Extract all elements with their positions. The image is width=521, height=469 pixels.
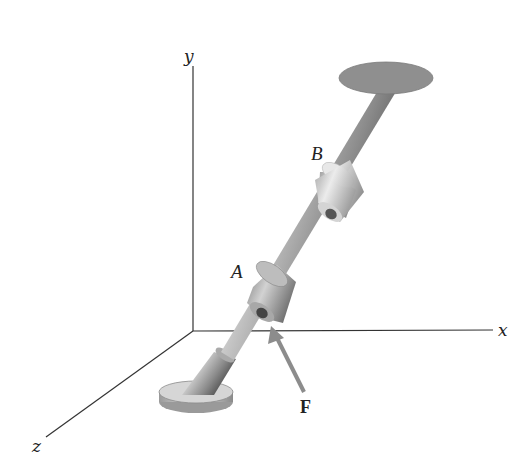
collar-b xyxy=(315,157,364,225)
top-plate xyxy=(339,62,433,94)
rod-collar-diagram: y x z B A F xyxy=(0,0,521,469)
coordinate-axes: y x z xyxy=(31,46,508,456)
x-axis-label: x xyxy=(498,320,508,340)
rod xyxy=(221,82,397,360)
force-f-label: F xyxy=(300,397,311,417)
force-f-arrow xyxy=(268,326,304,392)
point-b-label: B xyxy=(311,143,323,164)
z-axis-label: z xyxy=(31,436,42,456)
point-a-label: A xyxy=(229,261,243,282)
diagram-canvas: y x z B A F xyxy=(0,0,521,469)
y-axis-label: y xyxy=(183,46,194,66)
